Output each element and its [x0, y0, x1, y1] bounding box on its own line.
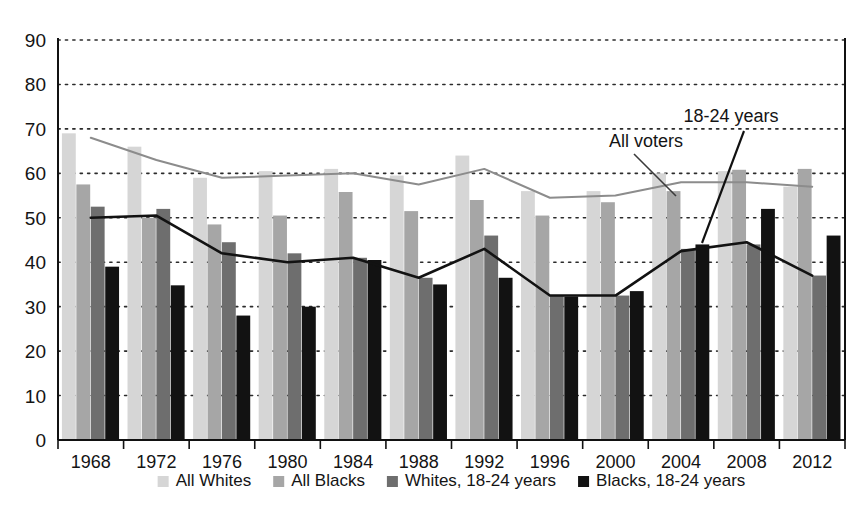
y-axis-tick-label: 40	[25, 252, 46, 273]
bar	[62, 133, 76, 440]
x-axis-tick-label: 1992	[464, 452, 504, 472]
bar	[732, 170, 746, 440]
bar	[718, 171, 732, 440]
bar	[105, 267, 119, 440]
bar	[288, 253, 302, 440]
annotations-group: All voters18-24 years	[609, 106, 779, 243]
bar	[433, 284, 447, 440]
chart-annotation-label: 18-24 years	[683, 106, 778, 126]
bar	[353, 258, 367, 440]
bar	[470, 200, 484, 440]
bar	[324, 169, 338, 440]
bar	[535, 216, 549, 440]
legend-swatch	[158, 476, 169, 487]
bar	[171, 285, 185, 440]
bar	[302, 307, 316, 440]
bar	[615, 296, 629, 440]
y-axis-tick-label: 30	[25, 297, 46, 318]
y-axis-tick-label: 50	[25, 208, 46, 229]
y-axis-tick-label: 80	[25, 74, 46, 95]
voter-turnout-chart: 0102030405060708090 19681972197619801984…	[0, 0, 858, 516]
bar	[681, 249, 695, 440]
bar	[404, 211, 418, 440]
x-axis-tick-label: 2000	[595, 452, 635, 472]
x-axis-tick-label: 1976	[202, 452, 242, 472]
x-axis-tick-label: 2012	[792, 452, 832, 472]
bar	[747, 244, 761, 440]
x-axis-labels: 1968197219761980198419881992199620002004…	[71, 452, 832, 472]
y-axis-tick-label: 90	[25, 30, 46, 51]
bar	[601, 202, 615, 440]
legend-label: Whites, 18-24 years	[405, 471, 556, 490]
x-axis-tick-label: 1972	[136, 452, 176, 472]
bar	[222, 242, 236, 440]
legend-label: All Blacks	[291, 471, 365, 490]
bar	[484, 236, 498, 440]
bar	[368, 260, 382, 440]
y-axis-tick-label: 10	[25, 386, 46, 407]
legend-label: All Whites	[176, 471, 252, 490]
bar	[193, 178, 207, 440]
chart-annotation-label: All voters	[609, 131, 683, 151]
x-axis-tick-label: 1984	[333, 452, 373, 472]
bar	[91, 207, 105, 440]
bar	[156, 209, 170, 440]
bar	[208, 224, 222, 440]
bar	[564, 296, 578, 440]
bar	[142, 218, 156, 440]
bar	[827, 236, 841, 440]
bar	[587, 191, 601, 440]
bar	[499, 278, 513, 440]
legend: All WhitesAll BlacksWhites, 18-24 yearsB…	[158, 471, 746, 490]
bar	[128, 147, 142, 440]
bar	[419, 278, 433, 440]
legend-label: Blacks, 18-24 years	[596, 471, 745, 490]
x-axis-tick-label: 2008	[727, 452, 767, 472]
bars-group	[62, 133, 841, 440]
x-axis-tick-label: 1988	[399, 452, 439, 472]
bar	[652, 173, 666, 440]
bar	[76, 184, 90, 440]
legend-swatch	[273, 476, 284, 487]
x-axis-ticks	[58, 440, 845, 449]
bar	[761, 209, 775, 440]
bar	[455, 156, 469, 440]
legend-swatch	[387, 476, 398, 487]
bar	[550, 296, 564, 440]
bar	[630, 291, 644, 440]
y-axis-labels: 0102030405060708090	[25, 30, 46, 451]
bar	[236, 316, 250, 440]
y-axis-tick-label: 70	[25, 119, 46, 140]
x-axis-tick-label: 1996	[530, 452, 570, 472]
bar	[339, 192, 353, 440]
plot-area: 0102030405060708090 19681972197619801984…	[0, 0, 858, 516]
bar	[667, 191, 681, 440]
bar	[259, 171, 273, 440]
legend-swatch	[578, 476, 589, 487]
y-axis-tick-label: 60	[25, 163, 46, 184]
y-axis-tick-label: 0	[35, 430, 46, 451]
y-axis-tick-label: 20	[25, 341, 46, 362]
bar	[390, 176, 404, 440]
bar	[695, 244, 709, 440]
chart-container: 0102030405060708090 19681972197619801984…	[0, 0, 858, 516]
bar	[812, 276, 826, 440]
x-axis-tick-label: 2004	[661, 452, 701, 472]
bar	[798, 169, 812, 440]
bar	[273, 216, 287, 440]
bar	[783, 187, 797, 440]
x-axis-tick-label: 1968	[71, 452, 111, 472]
x-axis-tick-label: 1980	[268, 452, 308, 472]
bar	[521, 191, 535, 440]
